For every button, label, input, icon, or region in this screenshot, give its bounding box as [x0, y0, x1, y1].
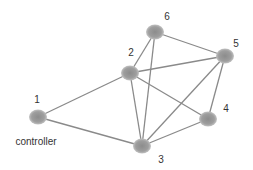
node-1 [29, 110, 47, 125]
controller-caption: controller [15, 136, 57, 147]
node-label-3: 3 [158, 154, 164, 165]
node-6 [146, 25, 164, 40]
edge-4-3 [142, 119, 208, 146]
edge-2-5 [130, 56, 225, 73]
node-4 [199, 112, 217, 127]
node-label-1: 1 [34, 94, 40, 105]
node-3 [133, 139, 151, 154]
node-label-4: 4 [223, 103, 229, 114]
node-label-5: 5 [233, 38, 239, 49]
node-5 [216, 49, 234, 64]
edge-2-3 [130, 73, 142, 146]
node-2 [121, 66, 139, 81]
nodes-layer [29, 25, 234, 154]
edge-6-5 [155, 32, 225, 56]
network-diagram: 1controller23456 [0, 0, 253, 170]
edge-2-4 [130, 73, 208, 119]
node-label-6: 6 [164, 11, 170, 22]
edge-1-2 [38, 73, 130, 117]
node-label-2: 2 [128, 47, 134, 58]
